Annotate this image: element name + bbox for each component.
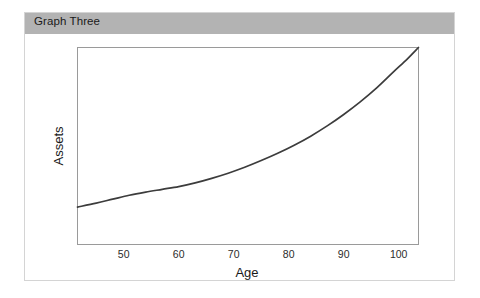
- x-axis-title: Age: [235, 265, 258, 280]
- line-chart: 5060708090100 Age Assets: [25, 34, 456, 282]
- y-axis-title: Assets: [51, 126, 66, 166]
- plot-frame: [78, 48, 419, 245]
- plot-area: 5060708090100 Age Assets: [25, 34, 456, 282]
- x-tick-label: 60: [173, 248, 185, 260]
- x-tick-label: 50: [118, 248, 130, 260]
- figure-title: Graph Three: [34, 15, 100, 27]
- figure-title-bar: Graph Three: [25, 13, 454, 34]
- figure-panel: Graph Three 5060708090100 Age Assets: [24, 12, 455, 281]
- assets-curve: [78, 48, 419, 208]
- x-tick-label: 70: [228, 248, 240, 260]
- x-tick-label: 80: [283, 248, 295, 260]
- x-tick-label: 100: [390, 248, 408, 260]
- x-tick-labels: 5060708090100: [118, 248, 408, 260]
- x-tick-label: 90: [338, 248, 350, 260]
